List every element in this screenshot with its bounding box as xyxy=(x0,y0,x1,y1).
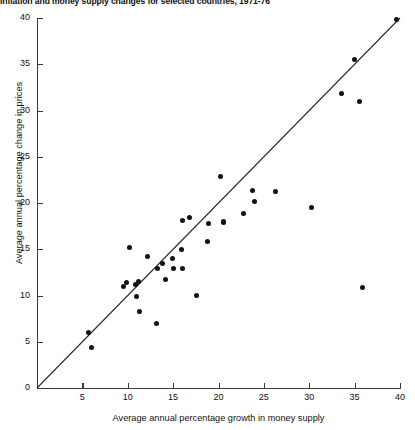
axis-corner-cap xyxy=(37,18,43,19)
data-point xyxy=(339,91,344,96)
axis-end-cap xyxy=(400,383,401,389)
data-point xyxy=(241,211,246,216)
data-point xyxy=(89,345,94,350)
data-point xyxy=(171,266,176,271)
data-point xyxy=(180,266,185,271)
reference-line xyxy=(0,0,415,430)
data-point xyxy=(206,221,211,226)
data-point xyxy=(180,218,185,223)
scatter-chart-figure: Inflation and money supply changes for s… xyxy=(0,0,415,430)
data-point xyxy=(160,261,165,266)
data-point xyxy=(252,199,257,204)
data-point xyxy=(170,256,175,261)
data-point xyxy=(357,99,362,104)
data-point xyxy=(218,174,223,179)
data-point xyxy=(127,245,132,250)
data-point xyxy=(137,309,142,314)
data-point xyxy=(179,247,184,252)
data-point xyxy=(360,285,365,290)
